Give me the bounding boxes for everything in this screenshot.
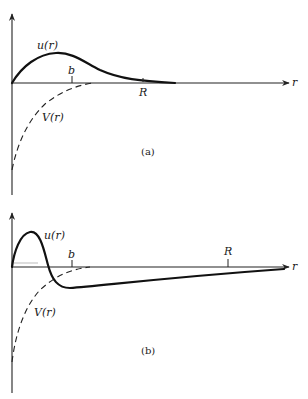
label-u-a: u(r) [37,39,58,52]
label-b-b: b [68,248,75,261]
potential-curve-a [12,83,92,170]
label-V-a: V(r) [42,111,64,124]
label-b-a: b [68,64,75,77]
caption-a: (a) [141,146,155,157]
label-R-b: R [223,245,232,258]
label-R-a: R [138,86,147,99]
wavefunction-curve-a [12,53,175,83]
panel-b: b R r u(r) V(r) (b) [12,213,298,393]
figure-canvas: b R r u(r) V(r) (a) b R r u(r) V(r) (b) [0,0,308,399]
label-V-b: V(r) [34,306,56,319]
label-r-axis-a: r [292,76,298,89]
label-r-axis-b: r [292,260,298,273]
label-u-b: u(r) [44,229,65,242]
panel-a: b R r u(r) V(r) (a) [12,14,298,195]
caption-b: (b) [141,345,155,356]
